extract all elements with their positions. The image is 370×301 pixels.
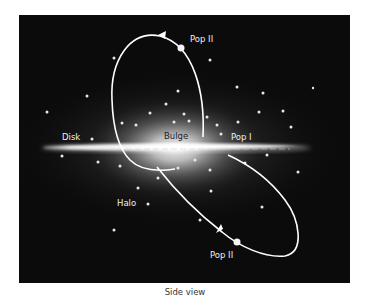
pop2-star-upper: [178, 45, 185, 52]
galaxy-panel: Disk Bulge Pop I Halo Pop II Pop II: [19, 15, 350, 283]
pop1-label: Pop I: [231, 133, 252, 142]
galaxy-illustration: [19, 15, 350, 283]
pop2-star-lower: [234, 239, 241, 246]
figure-caption: Side view: [0, 287, 370, 297]
halo-label: Halo: [117, 199, 136, 208]
orbit-arrow-upper-icon: [158, 31, 166, 39]
pop2-lower-label: Pop II: [210, 251, 233, 260]
pop2-upper-label: Pop II: [190, 35, 213, 44]
disk: [41, 143, 311, 153]
disk-label: Disk: [62, 133, 80, 142]
bulge-label: Bulge: [164, 132, 188, 141]
galaxy-side-view-figure: Disk Bulge Pop I Halo Pop II Pop II Side…: [0, 0, 370, 301]
